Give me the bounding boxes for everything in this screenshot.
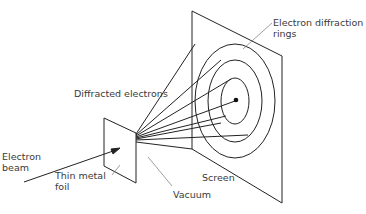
screen-label: Screen: [202, 172, 235, 183]
thin-metal-foil: [104, 118, 136, 183]
rings-leader: [243, 23, 272, 49]
diffracted-electrons-label: Diffracted electrons: [74, 88, 168, 99]
vacuum-label: Vacuum: [173, 189, 211, 200]
vacuum-leader: [148, 157, 172, 186]
rings-label: Electron diffractionrings: [273, 17, 363, 39]
central-spot: [234, 98, 239, 103]
electron-beam-label: Electronbeam: [2, 151, 41, 173]
foil-label: Thin metalfoil: [55, 170, 106, 192]
electron-diffraction-diagram: Electron diffractionrings Diffracted ele…: [0, 0, 366, 214]
